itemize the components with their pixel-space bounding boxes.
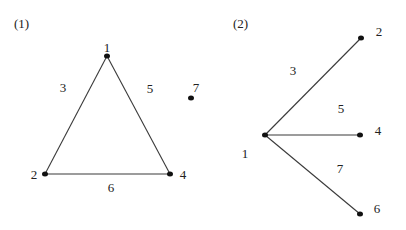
node-dot-6 [357, 212, 363, 217]
node-label: 2 [31, 167, 38, 182]
node-label: 1 [242, 146, 249, 161]
node-label: 7 [193, 80, 200, 95]
edge-1-6 [265, 135, 360, 214]
figure-caption: (2) [233, 16, 248, 31]
node-dot-2 [358, 36, 364, 41]
edge-1-2 [45, 56, 107, 174]
figure-2-star-graph: (2)3571246 [233, 16, 382, 217]
figure-caption: (1) [14, 16, 29, 31]
node-label: 6 [374, 201, 381, 216]
node-label: 2 [376, 24, 383, 39]
edge-1-2 [265, 38, 361, 135]
edge-label: 3 [290, 63, 297, 78]
edge-label: 5 [338, 101, 345, 116]
node-dot-2 [42, 172, 48, 177]
edge-label: 5 [147, 81, 154, 96]
node-dot-7 [188, 96, 194, 101]
node-dot-4 [167, 172, 173, 177]
edge-label: 7 [337, 161, 344, 176]
node-label: 1 [104, 40, 111, 55]
node-label: 4 [375, 123, 382, 138]
graph-diagram: (1)3561247 (2)3571246 [0, 0, 406, 230]
node-dot-1 [262, 133, 268, 138]
figure-1-triangle-graph: (1)3561247 [14, 16, 200, 195]
edge-label: 6 [108, 180, 115, 195]
node-label: 4 [180, 167, 187, 182]
edge-label: 3 [60, 80, 67, 95]
node-dot-4 [357, 133, 363, 138]
edge-1-4 [107, 56, 170, 174]
